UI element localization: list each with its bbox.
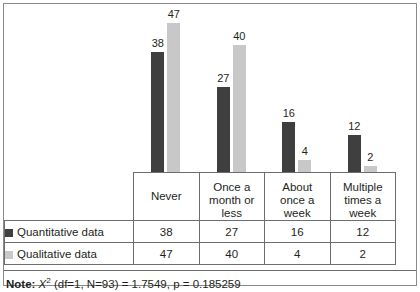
bar-value-label: 12 — [348, 120, 360, 132]
bar-value-label: 16 — [283, 107, 295, 119]
bar-wrap-quantitative: 12 — [348, 4, 361, 173]
legend-label: Qualitative data — [17, 248, 97, 260]
column-header-once-a-month-or-less: Once a month or less — [199, 173, 265, 221]
bar-value-label: 2 — [367, 151, 373, 163]
bar-group-never: 38 47 — [133, 4, 199, 173]
table-header-row: Never Once a month or less About once a … — [5, 173, 396, 221]
column-header-line2: times a — [344, 194, 381, 206]
bar-value-label: 4 — [302, 145, 308, 157]
cell-quantitative-once-a-month-or-less: 27 — [199, 221, 265, 243]
bar-wrap-qualitative: 47 — [167, 4, 180, 173]
bar-quantitative[interactable] — [151, 52, 164, 173]
bar-quantitative[interactable] — [217, 87, 230, 173]
cell-quantitative-never: 38 — [134, 221, 200, 243]
bar-qualitative[interactable] — [167, 23, 180, 173]
bar-wrap-quantitative: 38 — [151, 4, 164, 173]
legend-swatch-icon — [5, 251, 13, 259]
note-divider — [4, 270, 416, 271]
cell-qualitative-once-a-month-or-less: 40 — [199, 243, 265, 265]
note-text: Note: X2 (df=1, N=93) = 1.7549, p = 0.18… — [6, 274, 241, 291]
bar-quantitative[interactable] — [348, 135, 361, 173]
table-row: Qualitative data 47 40 4 2 — [5, 243, 396, 265]
bar-qualitative[interactable] — [233, 45, 246, 173]
bar-wrap-quantitative: 27 — [217, 4, 230, 173]
bar-value-label: 38 — [152, 37, 164, 49]
column-header-about-once-a-week: About once a week — [265, 173, 331, 221]
note-prefix: Note: — [6, 278, 35, 290]
bar-wrap-qualitative: 2 — [364, 4, 377, 173]
legend-swatch-icon — [5, 229, 13, 237]
cell-qualitative-multiple-times-a-week: 2 — [330, 243, 396, 265]
column-header-line3: week — [349, 207, 376, 219]
data-table: Never Once a month or less About once a … — [4, 172, 396, 265]
legend-item-qualitative: Qualitative data — [5, 243, 134, 265]
column-header-never: Never — [134, 173, 200, 221]
column-header-line3: less — [222, 207, 242, 219]
column-header-line2: once a — [280, 194, 315, 206]
cell-quantitative-multiple-times-a-week: 12 — [330, 221, 396, 243]
bar-wrap-qualitative: 4 — [298, 4, 311, 173]
cell-qualitative-never: 47 — [134, 243, 200, 265]
bar-value-label: 27 — [217, 72, 229, 84]
column-header-line1: Once a — [213, 181, 250, 193]
bar-wrap-quantitative: 16 — [282, 4, 295, 173]
bar-group-multiple-times-a-week: 12 2 — [330, 4, 396, 173]
note-body: (df=1, N=93) = 1.7549, p = 0.185259 — [51, 278, 241, 290]
bar-groups: 38 47 27 40 — [133, 4, 395, 173]
column-header-line3: week — [284, 207, 311, 219]
cell-quantitative-about-once-a-week: 16 — [265, 221, 331, 243]
bar-group-about-once-a-week: 16 4 — [264, 4, 330, 173]
chart-figure: 38 47 27 40 — [0, 0, 420, 292]
bar-value-label: 47 — [168, 8, 180, 20]
bar-group-once-a-month-or-less: 27 40 — [199, 4, 265, 173]
table-corner-spacer — [5, 173, 134, 221]
column-header-line1: About — [282, 181, 312, 193]
column-header-line1: Multiple — [343, 181, 383, 193]
plot-area: 38 47 27 40 — [4, 4, 416, 173]
bar-quantitative[interactable] — [282, 122, 295, 173]
column-header-multiple-times-a-week: Multiple times a week — [330, 173, 396, 221]
table-row: Quantitative data 38 27 16 12 — [5, 221, 396, 243]
column-header-line1: Never — [151, 190, 182, 202]
cell-qualitative-about-once-a-week: 4 — [265, 243, 331, 265]
bar-wrap-qualitative: 40 — [233, 4, 246, 173]
legend-item-quantitative: Quantitative data — [5, 221, 134, 243]
bar-value-label: 40 — [233, 30, 245, 42]
legend-label: Quantitative data — [17, 226, 104, 238]
column-header-line2: month or — [209, 194, 254, 206]
